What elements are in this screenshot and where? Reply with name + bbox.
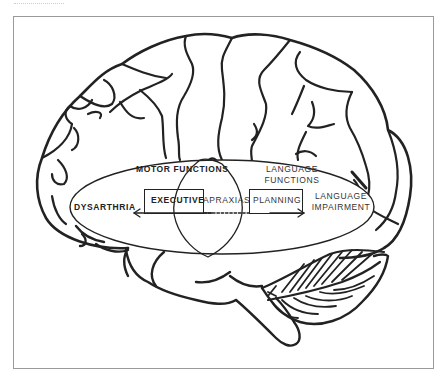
- language-impairment-line1: LANGUAGE: [306, 192, 376, 201]
- dysarthria-label: DYSARTHRIA: [74, 203, 136, 212]
- brain-illustration: [0, 0, 448, 383]
- executive-label: EXECUTIVE: [151, 196, 205, 205]
- language-functions-line1: LANGUAGE: [252, 165, 332, 174]
- language-impairment-line2: IMPAIRMENT: [306, 203, 376, 212]
- planning-label: PLANNING: [253, 196, 301, 205]
- cerebellum: [262, 250, 388, 324]
- language-impairment-label: LANGUAGE IMPAIRMENT: [306, 192, 376, 211]
- apraxias-label: APRAXIAS: [203, 196, 250, 205]
- language-functions-label: LANGUAGE FUNCTIONS: [252, 165, 332, 184]
- language-functions-line2: FUNCTIONS: [252, 176, 332, 185]
- motor-functions-label: MOTOR FUNCTIONS: [136, 165, 228, 174]
